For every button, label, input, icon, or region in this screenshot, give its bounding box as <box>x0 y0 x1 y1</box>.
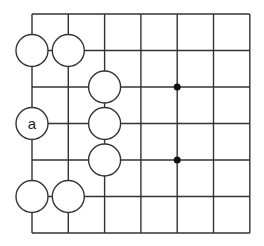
white-stone-icon <box>89 108 121 140</box>
white-stone <box>52 35 84 67</box>
stone-labeled-a: a <box>16 108 48 140</box>
white-stone-icon <box>89 71 121 103</box>
stone-label: a <box>28 115 37 132</box>
white-stone <box>16 35 48 67</box>
star-point-icon <box>174 84 181 91</box>
white-stone-icon <box>89 144 121 176</box>
white-stone-icon <box>16 35 48 67</box>
white-stone <box>89 108 121 140</box>
white-stone-icon <box>52 35 84 67</box>
go-board: a <box>0 0 264 246</box>
white-stone-icon <box>16 181 48 213</box>
white-stone <box>16 181 48 213</box>
white-stone <box>89 71 121 103</box>
white-stone <box>89 144 121 176</box>
white-stone <box>52 181 84 213</box>
white-stone-icon <box>52 181 84 213</box>
star-point-icon <box>174 157 181 164</box>
